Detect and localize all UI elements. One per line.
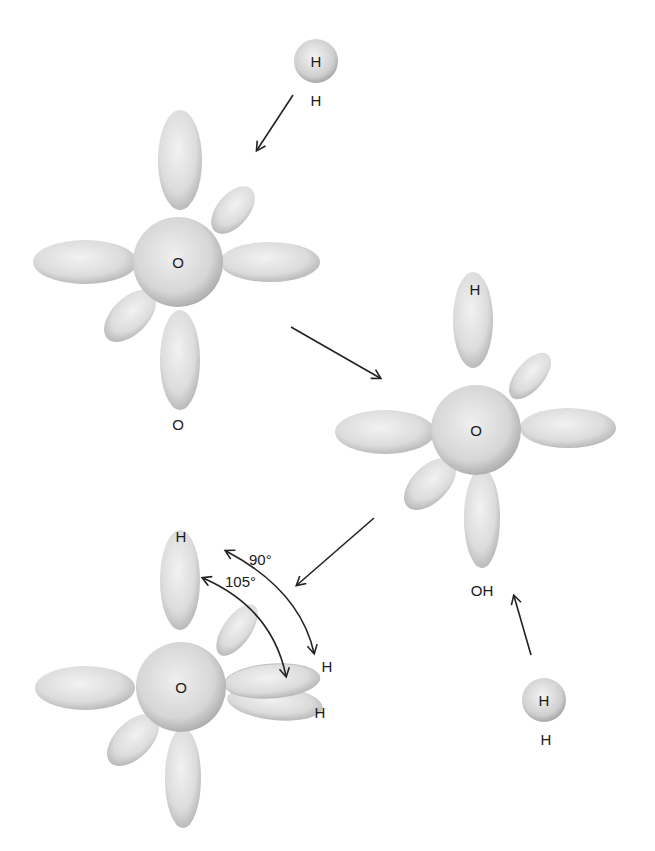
arrow-stage2-to-stage3: [297, 518, 374, 585]
p-orbital-lobe-icon: [520, 408, 616, 448]
p-orbital-lobe-icon: [464, 468, 500, 568]
arrow-stage1-to-stage2: [291, 327, 380, 378]
angle-105-label: 105°: [225, 573, 256, 590]
p-orbital-lobe-icon: [501, 346, 558, 407]
p-orbital-lobe-icon: [203, 178, 264, 241]
arrow-h-to-stage2: [514, 596, 531, 655]
p-orbital-lobe-icon: [335, 410, 435, 454]
hydrogen-atom-bottom: H H: [522, 678, 566, 748]
oxygen-stage3: O H H H: [35, 528, 332, 828]
p-orbital-lobe-icon: [158, 110, 202, 210]
p-orbital-lobe-icon: [220, 242, 320, 282]
p-orbital-lobe-icon: [160, 310, 200, 410]
oxygen-bottom-label: O: [172, 416, 184, 433]
oxygen-stage1: O O: [33, 110, 320, 433]
hydrogen-below-label: H: [541, 731, 552, 748]
arrow-h-to-stage1: [257, 95, 293, 150]
hydrogen-inner-label: H: [539, 692, 550, 709]
p-orbital-lobe-icon: [35, 666, 135, 710]
oxygen-bottom-label: OH: [471, 582, 494, 599]
hydrogen-right-label-2: H: [315, 704, 326, 721]
p-orbital-lobe-icon: [165, 728, 201, 828]
oxygen-center-label: O: [175, 679, 187, 696]
oxygen-top-label: H: [470, 281, 481, 298]
oxygen-center-label: O: [172, 254, 184, 271]
hydrogen-atom-top: H H: [294, 39, 338, 109]
p-orbital-lobe-icon: [33, 240, 137, 284]
oxygen-stage2: O H OH: [335, 272, 616, 599]
hydrogen-right-label-1: H: [322, 658, 333, 675]
angle-90-label: 90°: [249, 551, 272, 568]
p-orbital-lobe-icon: [160, 530, 200, 630]
water-formation-diagram: H H O O O H OH H H: [0, 0, 655, 851]
oxygen-center-label: O: [470, 422, 482, 439]
hydrogen-below-label: H: [311, 92, 322, 109]
p-orbital-lobe-icon: [208, 597, 265, 662]
hydrogen-inner-label: H: [311, 53, 322, 70]
oxygen-top-label: H: [176, 528, 187, 545]
